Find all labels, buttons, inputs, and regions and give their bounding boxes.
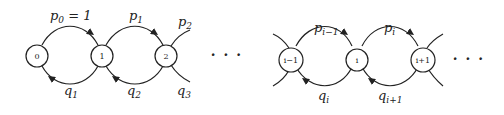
node-1: 1 <box>91 45 113 67</box>
edge-q2 <box>106 66 163 84</box>
node-i-minus-1: i−1 <box>279 48 303 72</box>
node-2: 2 <box>155 45 177 67</box>
markov-chain-diagram: 0 1 2 p0 = 1 p1 p2 q1 q2 q3 · · · <box>0 0 504 115</box>
edge-p0 <box>42 26 98 45</box>
svg-text:2: 2 <box>163 52 168 61</box>
node-0: 0 <box>26 45 48 67</box>
edge-q3 <box>171 65 190 82</box>
ellipsis-end: · · · <box>452 47 484 71</box>
label-q2: q2 <box>127 83 141 100</box>
label-p2: p2 <box>178 14 192 31</box>
label-p-i: pi <box>384 20 395 37</box>
label-p1: p1 <box>129 8 143 25</box>
svg-text:i+1: i+1 <box>416 56 430 65</box>
svg-text:0: 0 <box>34 52 39 61</box>
label-q3: q3 <box>177 83 191 100</box>
edge-q-i <box>296 67 352 86</box>
svg-text:i: i <box>356 56 359 65</box>
label-q-i-plus-1: qi+1 <box>378 88 402 105</box>
edge-q-i-plus-1 <box>362 67 418 86</box>
label-p-i-minus-1: pi−1 <box>314 20 338 37</box>
label-q-i: qi <box>318 88 329 105</box>
node-i-plus-1: i+1 <box>411 48 435 72</box>
label-q1: q1 <box>64 83 78 100</box>
label-p0: p0 = 1 <box>50 8 92 25</box>
edge-q1 <box>42 66 98 84</box>
svg-text:i−1: i−1 <box>284 56 298 65</box>
ellipsis-middle: · · · <box>210 43 242 67</box>
node-i: i <box>346 49 368 71</box>
edge-p2 <box>171 30 190 46</box>
edge-p1 <box>106 26 163 45</box>
svg-text:1: 1 <box>99 52 104 61</box>
